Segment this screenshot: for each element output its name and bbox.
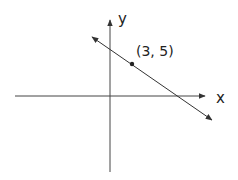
x-axis-label: x (216, 89, 225, 107)
point-label: (3, 5) (136, 43, 174, 59)
y-axis-label: y (118, 10, 127, 28)
coordinate-plane: (3, 5) y x (0, 0, 238, 180)
point-marker (130, 62, 134, 66)
